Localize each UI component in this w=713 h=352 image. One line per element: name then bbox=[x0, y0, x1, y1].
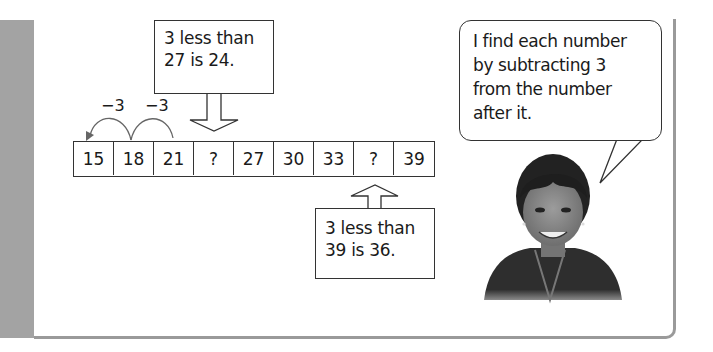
girl-photo bbox=[0, 0, 713, 352]
